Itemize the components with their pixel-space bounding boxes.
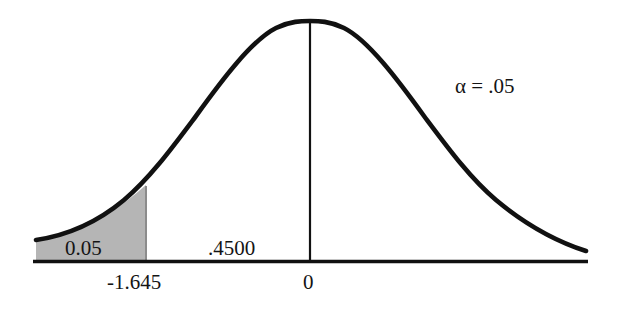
normal-distribution-figure: 0.05 .4500 -1.645 0 α = .05 xyxy=(0,0,619,317)
x-tick-label-zero: 0 xyxy=(303,272,314,293)
alpha-annotation: α = .05 xyxy=(455,76,515,97)
body-area-label: .4500 xyxy=(208,238,255,259)
tail-area-label: 0.05 xyxy=(65,238,102,259)
x-tick-label-critical-value: -1.645 xyxy=(107,272,161,293)
